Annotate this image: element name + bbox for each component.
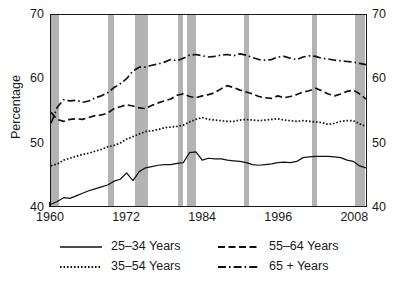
legend-key-dashed (218, 241, 260, 253)
chart-figure: Percentage Percentage 707060605050404019… (0, 0, 411, 286)
y-axis-tick-label-right: 50 (372, 137, 406, 150)
y-axis-tick-label-right: 60 (372, 72, 406, 85)
legend-label: 65 + Years (269, 260, 328, 273)
series-line-65-years (51, 54, 366, 123)
legend-key-dashdot (218, 261, 260, 273)
legend-key-dotted (60, 261, 102, 273)
legend-item[interactable]: 35–54 Years (60, 258, 181, 275)
legend-item[interactable]: 55–64 Years (218, 238, 339, 255)
chart-legend: 25–34 Years35–54 Years55–64 Years65 + Ye… (50, 238, 367, 280)
y-axis-tick-label-left: 60 (10, 72, 44, 85)
y-axis-tick-label-right: 70 (372, 8, 406, 21)
x-axis-tick-label: 1972 (101, 211, 151, 224)
x-axis-tick-label: 1960 (25, 211, 75, 224)
x-axis-tick-label: 1984 (177, 211, 227, 224)
plot-area (50, 14, 367, 207)
x-axis-tick-label: 1996 (253, 211, 303, 224)
legend-key-solid (60, 241, 102, 253)
legend-label: 25–34 Years (111, 240, 181, 253)
y-axis-tick-label-left: 70 (10, 8, 44, 21)
series-line-25-34-years (51, 152, 366, 204)
legend-item[interactable]: 65 + Years (218, 258, 328, 275)
legend-label: 55–64 Years (269, 240, 339, 253)
series-line-55-64-years (51, 86, 366, 122)
x-axis-tick-label: 2008 (329, 211, 379, 224)
legend-label: 35–54 Years (111, 260, 181, 273)
series-lines (51, 15, 366, 206)
legend-item[interactable]: 25–34 Years (60, 238, 181, 255)
y-axis-tick-label-left: 50 (10, 137, 44, 150)
